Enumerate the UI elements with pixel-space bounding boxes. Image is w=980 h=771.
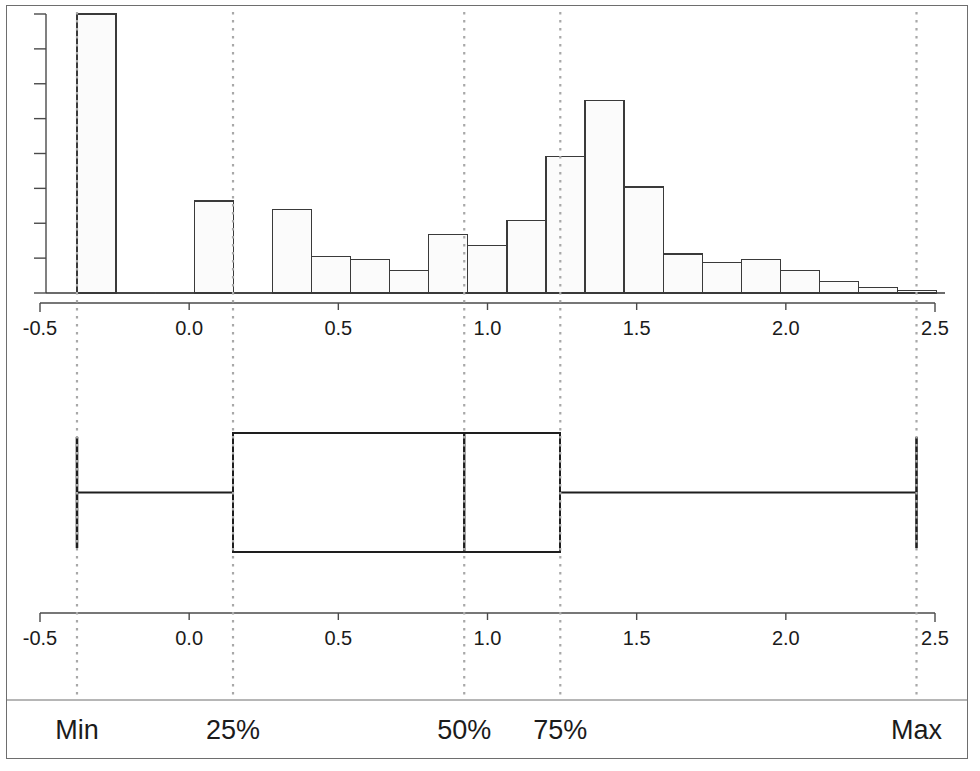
histogram-bar [585,100,624,293]
histogram-bar [429,234,468,293]
histogram-bars [46,14,945,293]
boxplot-x-axis [40,613,935,622]
histogram-bar [468,246,507,293]
x-axis-tick-label: 0.0 [175,317,203,340]
quartile-label-max: Max [891,715,942,746]
histogram-y-axis [34,14,46,293]
histogram-bar [663,254,702,293]
quartile-label-75pct: 75% [533,715,587,746]
histogram-bar [351,260,390,293]
quartile-label-50pct: 50% [437,715,491,746]
quartile-label-min: Min [55,715,99,746]
histogram-bar [77,14,116,293]
x-axis-tick-label: 2.0 [772,317,800,340]
x-axis-tick-label: 0.5 [324,627,352,650]
quartile-label-25pct: 25% [206,715,260,746]
histogram-bar [194,201,233,293]
histogram-bar [741,260,780,293]
boxplot-shape [77,433,917,552]
histogram-bar [702,262,741,293]
x-axis-tick-label: 0.5 [324,317,352,340]
histogram-x-axis [40,303,935,312]
x-axis-tick-label: 1.0 [474,317,502,340]
boxplot-panel [40,433,935,622]
x-axis-tick-label: 2.5 [921,317,949,340]
histogram-bar [546,156,585,293]
histogram-bar [390,271,429,293]
x-axis-tick-label: -0.5 [23,627,57,650]
statistics-figure: -0.50.00.51.01.52.02.5 -0.50.00.51.01.52… [0,0,980,771]
x-axis-tick-label: 0.0 [175,627,203,650]
histogram-panel [34,14,945,312]
quartile-guide-lines [77,12,917,700]
x-axis-tick-label: 2.0 [772,627,800,650]
plot-canvas [0,0,980,771]
histogram-bar [820,282,859,293]
x-axis-tick-label: -0.5 [23,317,57,340]
histogram-bar [272,209,311,293]
boxplot-iqr-box [233,433,560,552]
histogram-bar [507,220,546,293]
x-axis-tick-label: 1.0 [474,627,502,650]
x-axis-tick-label: 2.5 [921,627,949,650]
histogram-bar [311,257,350,293]
x-axis-tick-label: 1.5 [623,627,651,650]
histogram-bar [859,287,898,293]
x-axis-tick-label: 1.5 [623,317,651,340]
histogram-bar [624,187,663,293]
histogram-bar [780,271,819,293]
